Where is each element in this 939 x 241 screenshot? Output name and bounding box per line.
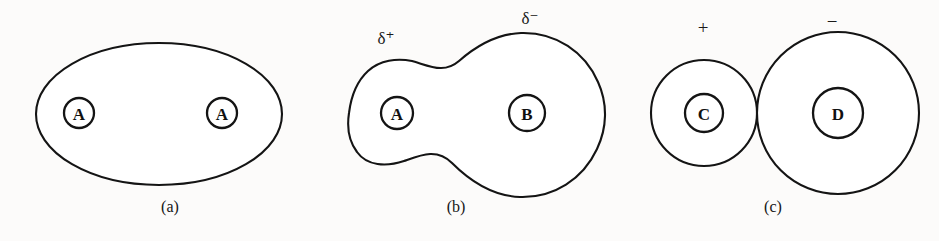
atom-label: B [521, 105, 532, 124]
atom-b-left: A [381, 97, 413, 129]
delta-minus-label: δ⁻ [522, 9, 539, 28]
panel-caption-a: (a) [161, 198, 179, 216]
panel-b: A B δ⁺ δ⁻ (b) [348, 9, 605, 216]
minus-sign-label: − [827, 11, 838, 32]
atom-label: A [391, 105, 404, 124]
panel-c: C D + − (c) [651, 11, 919, 216]
atom-label: C [698, 105, 710, 124]
atom-a-right: A [207, 98, 237, 128]
atom-a-left: A [64, 98, 94, 128]
delta-plus-label: δ⁺ [378, 29, 395, 48]
atom-b-right: B [509, 95, 545, 131]
atom-d: D [813, 88, 863, 138]
panel-caption-b: (b) [447, 198, 466, 216]
plus-sign-label: + [698, 17, 709, 38]
panel-caption-c: (c) [764, 198, 782, 216]
atom-label: D [832, 105, 844, 124]
atom-c: C [685, 94, 723, 132]
panel-a: A A (a) [36, 43, 282, 216]
atom-label: A [73, 105, 86, 124]
bond-polarity-figure: A A (a) A B δ⁺ δ⁻ (b) [0, 0, 939, 241]
atom-label: A [216, 105, 229, 124]
figure-canvas: A A (a) A B δ⁺ δ⁻ (b) [0, 0, 939, 241]
